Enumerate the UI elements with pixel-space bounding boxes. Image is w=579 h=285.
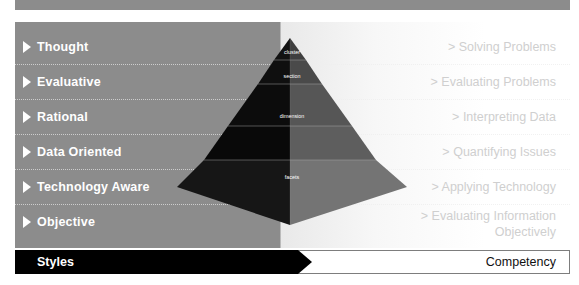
pyramid-diagram: cluster section dimension facets (15, 22, 570, 248)
pyramid-label-section: section (283, 73, 300, 79)
pyramid-label-dimension: dimension (280, 113, 305, 119)
slide-canvas: Thought > Solving Problems Evaluative > … (0, 0, 579, 285)
pyramid-label-facets: facets (285, 174, 300, 180)
pyramid-right-face (290, 38, 407, 225)
footer-arrow-icon (298, 250, 312, 274)
footer-bar: Styles Competency (15, 250, 570, 274)
diagram-panel: Thought > Solving Problems Evaluative > … (15, 22, 570, 248)
top-decorative-bar (15, 0, 570, 10)
footer-styles-label: Styles (37, 250, 74, 274)
footer-competency-label: Competency (486, 250, 556, 274)
pyramid-left-face (177, 38, 290, 225)
pyramid-label-cluster: cluster (284, 49, 300, 55)
